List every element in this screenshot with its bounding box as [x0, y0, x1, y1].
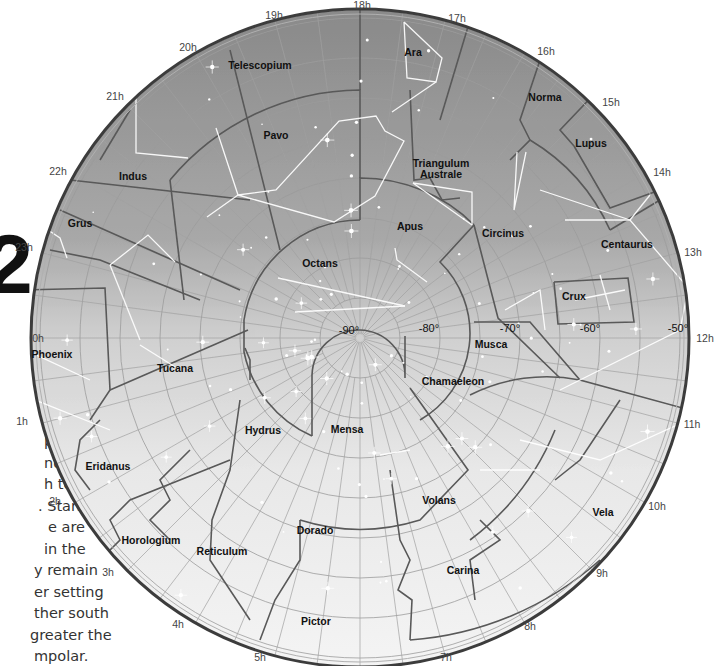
hour-label: 20h: [179, 41, 197, 53]
star: [407, 301, 410, 304]
hour-label: 15h: [602, 96, 620, 108]
star: [458, 253, 460, 255]
constellation-label: Horologium: [122, 534, 181, 546]
star: [319, 298, 322, 301]
star: [379, 582, 381, 584]
hour-label: 5h: [254, 651, 266, 663]
star: [533, 292, 535, 294]
hour-label: 4h: [172, 618, 184, 630]
star: [285, 354, 288, 357]
constellation-label: Volans: [422, 494, 456, 506]
star: [314, 338, 316, 340]
star: [463, 218, 465, 220]
constellation-label: Eridanus: [86, 460, 131, 472]
declination-label: -80°: [419, 322, 439, 334]
star: [569, 342, 571, 344]
star: [330, 293, 333, 296]
star: [260, 501, 263, 504]
star: [360, 381, 363, 384]
star: [621, 480, 623, 482]
star: [355, 121, 358, 124]
star: [397, 268, 399, 270]
constellation-label: Crux: [562, 290, 586, 302]
constellation-label: Apus: [397, 220, 423, 232]
constellation-label: Hydrus: [245, 424, 281, 436]
star: [306, 239, 308, 241]
star: [274, 297, 277, 300]
star: [488, 380, 491, 383]
star: [152, 262, 155, 265]
star: [314, 126, 316, 128]
hour-label: 1h: [16, 415, 28, 427]
star: [167, 349, 169, 351]
constellation-label: Vela: [592, 506, 613, 518]
constellation-label: Chamaeleon: [422, 375, 484, 387]
star: [229, 388, 232, 391]
star: [310, 340, 313, 343]
star: [398, 265, 401, 268]
star: [385, 580, 388, 583]
constellation-label: Pavo: [263, 129, 288, 141]
hour-label: 17h: [448, 12, 466, 24]
constellation-label: Circinus: [482, 227, 524, 239]
star: [607, 350, 610, 353]
constellation-label: Pictor: [301, 615, 331, 627]
constellation-label: Indus: [119, 170, 147, 182]
star: [489, 443, 492, 446]
star: [358, 483, 361, 486]
star: [283, 531, 285, 533]
hour-label: 14h: [653, 166, 671, 178]
star: [240, 316, 242, 318]
hour-label: 22h: [49, 165, 67, 177]
star: [383, 478, 385, 480]
constellation-label: Ara: [404, 46, 422, 58]
star: [530, 337, 533, 340]
constellation-label: Reticulum: [197, 545, 248, 557]
star: [410, 396, 412, 398]
hour-label: 0h: [32, 332, 44, 344]
hour-label: 7h: [440, 651, 452, 663]
star: [209, 385, 211, 387]
declination-label: -70°: [500, 322, 520, 334]
star: [366, 38, 369, 41]
star-chart: 0h1h2h3h4h5h7h8h9h10h11h12h13h14h15h16h1…: [0, 0, 720, 666]
star: [261, 123, 263, 125]
constellation-label: Phoenix: [32, 348, 73, 360]
star: [345, 373, 349, 377]
star: [337, 467, 340, 470]
hour-label: 23h: [15, 241, 33, 253]
star: [402, 362, 404, 364]
declination-label: -90°: [339, 324, 359, 336]
star: [541, 370, 543, 372]
star: [200, 273, 202, 275]
declination-label: -60°: [580, 322, 600, 334]
hour-label: 8h: [524, 620, 536, 632]
declination-label: -50°: [668, 322, 688, 334]
star: [444, 272, 446, 274]
constellation-label: Tucana: [157, 362, 193, 374]
hour-label: 21h: [106, 90, 124, 102]
star: [459, 399, 462, 402]
star: [265, 236, 268, 239]
hour-label: 11h: [684, 418, 701, 430]
constellation-label: Telescopium: [228, 59, 291, 71]
star: [415, 477, 418, 480]
star: [239, 300, 241, 302]
constellation-label: Mensa: [331, 423, 364, 435]
hour-label: 3h: [102, 566, 114, 578]
star: [86, 413, 89, 416]
hour-label: 18h: [353, 0, 371, 11]
star: [319, 280, 321, 282]
hour-label: 19h: [265, 9, 283, 21]
star: [92, 211, 94, 213]
star: [267, 191, 269, 193]
hour-label: 12h: [696, 332, 714, 344]
constellation-label: Lupus: [575, 137, 607, 149]
star: [390, 354, 393, 357]
star: [364, 495, 367, 498]
star: [351, 154, 354, 157]
star: [361, 402, 364, 405]
constellation-label: Australe: [420, 168, 462, 180]
star: [518, 586, 522, 590]
star: [208, 98, 210, 100]
